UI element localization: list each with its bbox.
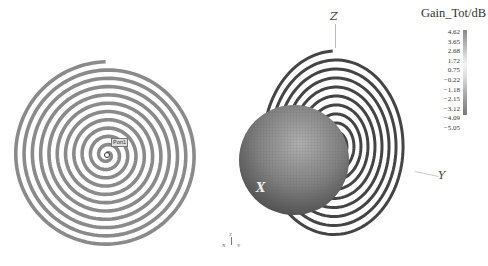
colorbar-tick: −2.15 <box>430 95 460 105</box>
colorbar-tick: −0.22 <box>430 76 460 86</box>
pattern-graphic <box>230 40 420 240</box>
colorbar-tick: −4.09 <box>430 114 460 124</box>
colorbar-title: Gain_Tot/dB <box>421 6 486 21</box>
colorbar-tick: 4.62 <box>430 28 460 38</box>
colorbar-tick: 3.65 <box>430 38 460 48</box>
spiral-graphic <box>10 50 210 255</box>
colorbar-tick: −3.12 <box>430 105 460 115</box>
colorbar-ticks: 4.62 3.65 2.68 1.72 0.75 −0.22 −1.18 −2.… <box>430 28 460 134</box>
colorbar-tick: 1.72 <box>430 57 460 67</box>
z-axis-line <box>335 24 336 48</box>
colorbar-tick: 0.75 <box>430 66 460 76</box>
colorbar-tick: 2.68 <box>430 47 460 57</box>
port-label: Port1 <box>111 138 128 147</box>
triad-z-label: Z <box>229 232 232 237</box>
y-axis-label: Y <box>438 169 445 182</box>
x-axis-label: X <box>256 181 265 195</box>
z-axis-label: Z <box>330 10 338 23</box>
triad-z-axis <box>231 237 232 245</box>
colorbar-gradient <box>463 30 467 115</box>
port-marker <box>104 152 110 158</box>
triad-x-label: X <box>222 243 226 248</box>
colorbar-tick: −1.18 <box>430 86 460 96</box>
colorbar-tick: −5.05 <box>430 124 460 134</box>
triad-y-label: Y <box>237 243 241 248</box>
spiral-antenna-top-view <box>10 50 210 255</box>
radiation-pattern-3d-view <box>230 40 420 240</box>
